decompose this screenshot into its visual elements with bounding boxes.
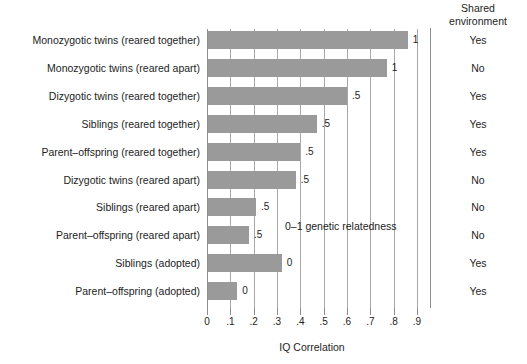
category-label: Monozygotic twins (reared apart) <box>4 59 200 77</box>
x-tick-label: 0 <box>194 316 220 327</box>
bar <box>208 143 300 161</box>
shared-environment-value: Yes <box>432 115 524 133</box>
bar-value-label: .5 <box>254 226 262 244</box>
shared-environment-value: No <box>432 59 524 77</box>
category-label: Monozygotic twins (reared together) <box>4 31 200 49</box>
category-label: Dizygotic twins (reared together) <box>4 87 200 105</box>
x-tick-label: .3 <box>264 316 290 327</box>
category-axis-labels: Monozygotic twins (reared together)Monoz… <box>0 29 200 308</box>
shared-environment-value: No <box>432 226 524 244</box>
bar <box>208 171 296 189</box>
category-label: Siblings (reared apart) <box>4 198 200 216</box>
bar <box>208 87 347 105</box>
bar-value-label: .5 <box>305 143 313 161</box>
bar <box>208 31 408 49</box>
x-tick-mark <box>230 308 231 315</box>
x-axis-title: IQ Correlation <box>207 341 417 353</box>
bar-value-label: 1 <box>413 31 419 49</box>
shared-environment-value: Yes <box>432 282 524 300</box>
bar <box>208 226 249 244</box>
bar <box>208 254 282 272</box>
shared-environment-header-line2: environment <box>432 15 524 28</box>
bar <box>208 115 317 133</box>
shared-environment-values: YesNoYesYesYesNoNoNoYesYes <box>432 29 524 308</box>
x-tick-mark <box>324 308 325 315</box>
x-tick-mark <box>370 308 371 315</box>
category-label: Siblings (adopted) <box>4 254 200 272</box>
column-divider <box>430 28 431 308</box>
x-tick-mark <box>394 308 395 315</box>
shared-environment-value: No <box>432 198 524 216</box>
x-tick-label: .4 <box>287 316 313 327</box>
category-label: Parent–offspring (reared together) <box>4 143 200 161</box>
shared-environment-header: Shared environment <box>432 2 524 28</box>
category-label: Siblings (reared together) <box>4 115 200 133</box>
shared-environment-value: Yes <box>432 31 524 49</box>
bar-value-label: .5 <box>322 115 330 133</box>
x-tick-label: .5 <box>311 316 337 327</box>
bar <box>208 59 387 77</box>
shared-environment-header-line1: Shared <box>432 2 524 15</box>
shared-environment-value: Yes <box>432 254 524 272</box>
x-tick-label: .2 <box>241 316 267 327</box>
x-tick-mark <box>347 308 348 315</box>
bar <box>208 282 237 300</box>
bar <box>208 198 256 216</box>
gridline-.9 <box>417 29 418 308</box>
shared-environment-value: No <box>432 171 524 189</box>
bar-value-label: 0 <box>287 254 293 272</box>
iq-correlation-chart: Shared environment Monozygotic twins (re… <box>0 0 527 364</box>
category-label: Parent–offspring (adopted) <box>4 282 200 300</box>
category-label: Dizygotic twins (reared apart) <box>4 171 200 189</box>
bar-value-label: .5 <box>352 87 360 105</box>
shared-environment-value: Yes <box>432 143 524 161</box>
x-tick-label: .8 <box>381 316 407 327</box>
bar-value-label: 1 <box>392 59 398 77</box>
x-tick-mark <box>417 308 418 315</box>
genetic-relatedness-annotation: 0–1 genetic relatedness <box>285 219 397 233</box>
x-tick-label: .9 <box>404 316 430 327</box>
bar-value-label: .5 <box>301 171 309 189</box>
x-tick-label: .1 <box>217 316 243 327</box>
x-tick-mark <box>300 308 301 315</box>
x-tick-label: .6 <box>334 316 360 327</box>
category-label: Parent–offspring (reared apart) <box>4 226 200 244</box>
x-tick-mark <box>254 308 255 315</box>
bar-value-label: 0 <box>242 282 248 300</box>
x-tick-mark <box>207 308 208 315</box>
plot-area: 11.5.5.5.5.5.500 <box>207 29 417 308</box>
x-tick-label: .7 <box>357 316 383 327</box>
x-tick-mark <box>277 308 278 315</box>
shared-environment-value: Yes <box>432 87 524 105</box>
bar-value-label: .5 <box>261 198 269 216</box>
